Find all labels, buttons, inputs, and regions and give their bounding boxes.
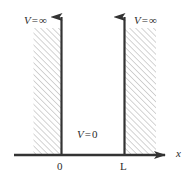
- right-barrier-hatch: [125, 28, 157, 155]
- x-tick-label-width: L: [120, 161, 127, 172]
- potential-symbol: V: [134, 14, 141, 26]
- left-barrier-hatch: [34, 28, 62, 155]
- x-tick-label-origin: 0: [57, 161, 63, 172]
- x-axis-label: x: [176, 148, 181, 159]
- equals-sign: =: [84, 128, 92, 140]
- potential-symbol: V: [24, 14, 31, 26]
- potential-symbol: V: [77, 128, 84, 140]
- right-wall-potential-label: V=∞: [134, 15, 157, 26]
- infinity-symbol: ∞: [149, 14, 157, 26]
- well-interior-potential-label: V=0: [77, 129, 97, 140]
- equals-sign: =: [141, 14, 149, 26]
- infinity-symbol: ∞: [39, 14, 47, 26]
- figure-canvas: [0, 0, 189, 181]
- equals-sign: =: [31, 14, 39, 26]
- left-wall-potential-label: V=∞: [24, 15, 47, 26]
- zero-value: 0: [92, 128, 98, 140]
- potential-well-figure: V=∞ V=∞ V=0 0 L x: [0, 0, 189, 181]
